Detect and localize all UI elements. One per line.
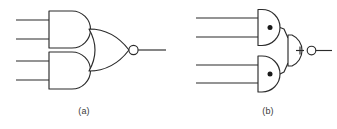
logic-gate-figure: (a) (b) [0,0,337,129]
panel-b-and-gate-bottom [196,56,280,92]
panel-b-and-bottom-operator-dot [268,72,273,77]
panel-b-caption: (b) [262,106,274,116]
panel-a-nor-gate [89,29,166,71]
panel-b-circuit [196,10,332,93]
panel-a-and-bottom-body [49,52,91,89]
panel-b-wire-and-top-to-or [280,28,288,39]
panel-a-caption: (a) [78,106,90,116]
panel-b-wire-and-bottom-to-or [280,63,288,74]
panel-b-and-top-operator-dot [268,25,273,30]
panel-a-circuit [16,11,166,89]
panel-b-and-gate-top [196,10,280,46]
panel-b-nor-inversion-bubble [307,46,316,55]
circuit-diagram-canvas [0,0,337,129]
panel-a-and-gate-bottom [16,52,91,89]
panel-a-nor-inversion-bubble [129,45,138,54]
panel-b-nor-gate [288,35,332,66]
panel-a-nor-body [89,29,129,71]
panel-a-and-gate-top [16,11,91,48]
panel-a-and-top-body [49,11,91,48]
